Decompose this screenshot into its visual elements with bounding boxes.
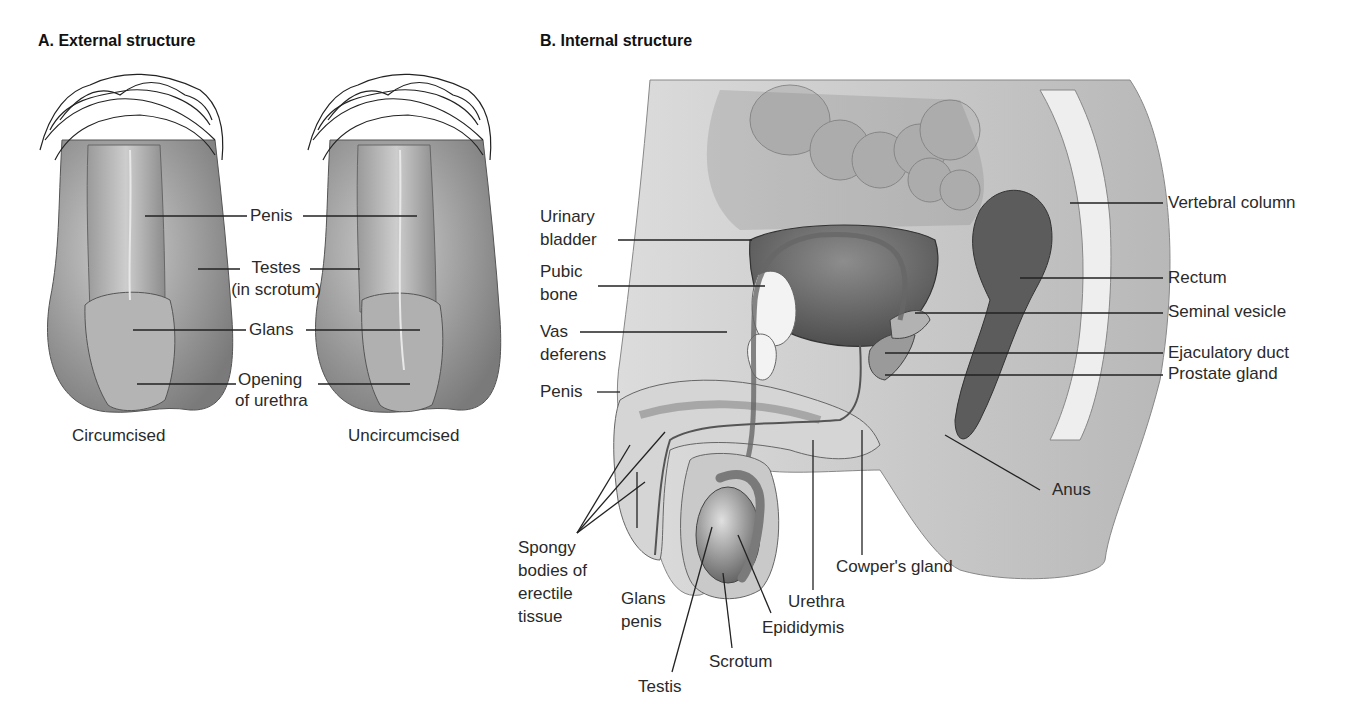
uncircumcised-illustration: [308, 74, 501, 412]
label-glans-penis-line2: penis: [621, 612, 662, 632]
caption-uncircumcised: Uncircumcised: [348, 426, 459, 446]
circumcised-illustration: [40, 74, 233, 412]
label-opening-line2: of urethra: [235, 391, 308, 411]
label-testes-line1: Testes: [240, 258, 312, 278]
label-pubic-bone-line2: bone: [540, 285, 578, 305]
label-spongy-line3: erectile: [518, 584, 573, 604]
label-opening-line1: Opening: [238, 370, 302, 390]
label-vas-deferens-line2: deferens: [540, 345, 606, 365]
label-seminal-vesicle: Seminal vesicle: [1168, 302, 1286, 322]
label-spongy-line2: bodies of: [518, 561, 587, 581]
label-rectum: Rectum: [1168, 268, 1227, 288]
label-urinary-bladder-line2: bladder: [540, 230, 597, 250]
label-testis: Testis: [638, 677, 681, 697]
label-glans-penis-line1: Glans: [621, 589, 665, 609]
label-epididymis: Epididymis: [762, 618, 844, 638]
anatomy-illustration: [0, 0, 1352, 710]
label-cowpers-gland: Cowper's gland: [836, 557, 953, 577]
label-penis-internal: Penis: [540, 382, 583, 402]
caption-circumcised: Circumcised: [72, 426, 166, 446]
label-urinary-bladder-line1: Urinary: [540, 207, 595, 227]
internal-section-illustration: [614, 80, 1170, 599]
label-pubic-bone-line1: Pubic: [540, 262, 583, 282]
label-vertebral-column: Vertebral column: [1168, 193, 1296, 213]
label-spongy-line1: Spongy: [518, 538, 576, 558]
label-urethra: Urethra: [788, 592, 845, 612]
label-vas-deferens-line1: Vas: [540, 322, 568, 342]
label-ejaculatory-duct: Ejaculatory duct: [1168, 343, 1289, 363]
panel-a-title: A. External structure: [38, 32, 195, 50]
panel-b-title: B. Internal structure: [540, 32, 692, 50]
label-spongy-line4: tissue: [518, 607, 562, 627]
label-glans: Glans: [249, 320, 293, 340]
label-testes-line2: (in scrotum): [222, 280, 330, 300]
label-prostate-gland: Prostate gland: [1168, 364, 1278, 384]
label-scrotum: Scrotum: [709, 652, 772, 672]
label-penis-external: Penis: [250, 206, 293, 226]
label-anus: Anus: [1052, 480, 1091, 500]
